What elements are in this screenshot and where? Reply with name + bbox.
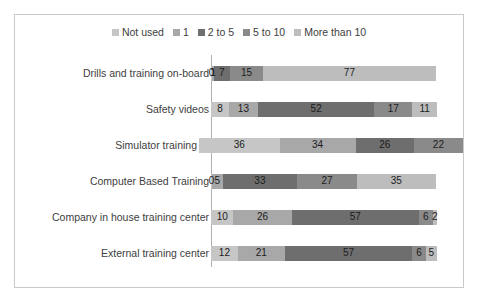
plot-area: Drills and training on-board0171577Safet… [15,53,463,271]
bar-segment-value: 11 [419,104,429,114]
chart-legend: Not used12 to 55 to 10More than 10 [15,27,463,38]
legend-item-label: Not used [122,27,164,38]
bar-segment[interactable]: 8 [211,102,229,117]
stacked-bar[interactable]: 813521711 [211,102,437,117]
bar-segment[interactable]: 52 [258,102,374,117]
category-label: Safety videos [15,104,211,115]
chart-row: Safety videos813521711 [15,91,463,127]
bar-segment-value: 34 [312,140,323,150]
bar-segment-value: 8 [217,104,223,114]
bar-segment[interactable]: 36 [199,138,280,153]
legend-item[interactable]: 2 to 5 [198,27,234,38]
bar-segment-value: 5 [215,176,221,186]
bar-segment-value: 5 [429,248,435,258]
legend-swatch-icon [173,29,180,36]
legend-item-label: 1 [183,27,189,38]
bar-segment-value: 2 [432,212,438,222]
bar-segment[interactable]: 26 [356,138,414,153]
bar-segment-value: 27 [321,176,332,186]
chart-row: Drills and training on-board0171577 [15,55,463,91]
bar-segment[interactable]: 17 [374,102,412,117]
chart-row: External training center12215765 [15,235,463,271]
bar-segment[interactable]: 5 [426,246,437,261]
legend-swatch-icon [198,29,205,36]
bar-segment-value: 1 [210,68,216,78]
chart-frame: Not used12 to 55 to 10More than 10 Drill… [14,14,464,288]
bar-segment[interactable]: 33 [223,174,297,189]
bar-segment[interactable]: 34 [280,138,356,153]
bar-segment[interactable]: 22 [414,138,463,153]
bar-segment-value: 57 [350,212,361,222]
bar-segment-value: 26 [379,140,390,150]
category-label: Company in house training center [15,212,211,223]
bar-segment[interactable]: 35 [357,174,435,189]
bar-segment-value: 7 [219,68,225,78]
chart-row: Company in house training center10265762 [15,199,463,235]
bar-segment-value: 10 [217,212,228,222]
category-label: Computer Based Training [15,176,211,187]
stacked-bar[interactable]: 12215765 [211,246,437,261]
bar-segment[interactable]: 10 [211,210,233,225]
bar-segment-value: 36 [234,140,245,150]
stacked-bar[interactable]: 36342622 [199,138,463,153]
bar-segment-value: 52 [311,104,322,114]
bar-segment[interactable]: 6 [412,246,425,261]
bar-segment[interactable]: 13 [229,102,258,117]
category-label: Drills and training on-board [15,68,211,79]
category-label: Simulator training [15,140,199,151]
bar-segment-value: 77 [344,68,355,78]
legend-swatch-icon [243,29,250,36]
bar-segment[interactable]: 15 [230,66,264,81]
bar-segment[interactable]: 2 [433,210,437,225]
legend-swatch-icon [112,29,119,36]
bar-segment-value: 12 [219,248,230,258]
stacked-bar[interactable]: 10265762 [211,210,437,225]
bar-segment-value: 0 [209,176,215,186]
bar-segment-value: 35 [391,176,402,186]
bar-segment-value: 6 [423,212,429,222]
category-label: External training center [15,248,211,259]
chart-row: Computer Based Training05332735 [15,163,463,199]
bar-segment[interactable]: 27 [297,174,357,189]
bar-segment-value: 6 [416,248,422,258]
bar-segment[interactable]: 21 [238,246,285,261]
legend-item-label: 5 to 10 [253,27,285,38]
bar-segment[interactable]: 77 [263,66,435,81]
bar-segment[interactable]: 26 [233,210,291,225]
bar-segment[interactable]: 11 [412,102,437,117]
bar-segment-value: 33 [254,176,265,186]
bar-segment-value: 22 [433,140,444,150]
bar-segment-value: 21 [256,248,267,258]
bar-segment-value: 15 [241,68,252,78]
bar-segment[interactable]: 6 [419,210,432,225]
legend-item[interactable]: More than 10 [294,27,366,38]
bar-segment-value: 26 [257,212,268,222]
legend-item[interactable]: 1 [173,27,189,38]
chart-row: Simulator training36342622 [15,127,463,163]
legend-item[interactable]: 5 to 10 [243,27,285,38]
stacked-bar[interactable]: 05332735 [211,174,436,189]
bar-segment-value: 17 [388,104,399,114]
stacked-bar[interactable]: 0171577 [211,66,436,81]
legend-item-label: 2 to 5 [208,27,234,38]
bar-segment[interactable]: 12 [211,246,238,261]
bar-segment[interactable]: 7 [214,66,230,81]
bar-segment[interactable]: 57 [292,210,420,225]
legend-item-label: More than 10 [304,27,366,38]
bar-segment[interactable]: 57 [285,246,413,261]
bar-segment-value: 57 [343,248,354,258]
legend-item[interactable]: Not used [112,27,164,38]
bar-segment-value: 13 [238,104,249,114]
legend-swatch-icon [294,29,301,36]
